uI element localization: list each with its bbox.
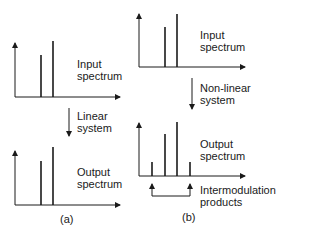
panel-b-intermodulation-label-line1: Intermodulation <box>200 184 276 196</box>
panel-a-output-label-line1: Output <box>77 166 122 178</box>
panel-a-system-label-line2: system <box>77 122 112 134</box>
panel-b-output-label-line1: Output <box>200 138 245 150</box>
panel-b-intermodulation-label: Intermodulation products <box>200 184 276 208</box>
panel-b-input-lines <box>165 14 177 67</box>
panel-b-input-label-line2: spectrum <box>200 41 245 53</box>
panel-b-system-label-line2: system <box>200 94 251 106</box>
panel-b-output-label-line2: spectrum <box>200 150 245 162</box>
panel-a-output-lines <box>41 147 53 205</box>
panel-b-caption: (b) <box>182 211 195 223</box>
panel-b-input-label: Input spectrum <box>200 29 245 53</box>
panel-b-system-label-line1: Non-linear <box>200 82 251 94</box>
panel-a-input-label-line1: Input <box>77 58 122 70</box>
panel-a-input-label: Input spectrum <box>77 58 122 82</box>
panel-a-input-lines <box>41 41 53 97</box>
panel-a-system-label: Linear system <box>77 110 112 134</box>
panel-a-output-label-line2: spectrum <box>77 178 122 190</box>
panel-b-output-lines <box>152 122 190 176</box>
panel-b-system-label: Non-linear system <box>200 82 251 106</box>
panel-a-input-label-line2: spectrum <box>77 70 122 82</box>
panel-b-input-label-line1: Input <box>200 29 245 41</box>
panel-b-intermodulation-label-line2: products <box>200 196 276 208</box>
panel-a-output-label: Output spectrum <box>77 166 122 190</box>
panel-a-system-label-line1: Linear <box>77 110 112 122</box>
intermodulation-bracket <box>152 184 190 196</box>
panel-a-caption: (a) <box>60 213 73 225</box>
panel-b-output-label: Output spectrum <box>200 138 245 162</box>
